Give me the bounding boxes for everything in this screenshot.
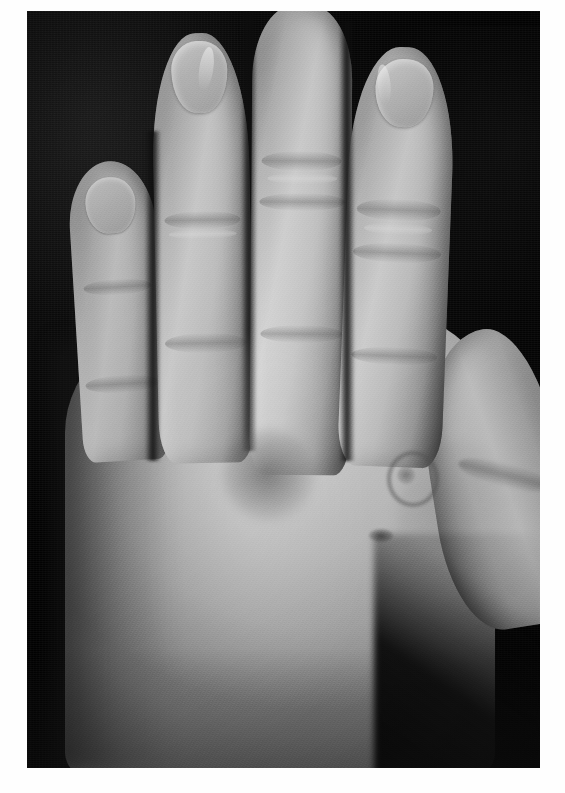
page-margin-right — [540, 0, 565, 793]
lesion-annular-center — [397, 466, 415, 484]
page-margin-bottom — [0, 768, 565, 793]
middle-finger-dip-highlight — [267, 173, 337, 184]
middle-finger-dip-crease — [261, 151, 341, 172]
lesion-diffuse-patch — [223, 429, 315, 521]
index-finger-dip-highlight — [364, 222, 432, 237]
clinical-photograph — [27, 11, 540, 768]
middle-finger-dip-crease-2 — [259, 193, 345, 212]
index-finger-dip-crease-2 — [353, 241, 442, 264]
page-margin-top — [0, 0, 565, 11]
middle-finger-pip-crease — [260, 325, 342, 344]
page-margin-left — [0, 0, 27, 793]
photograph-page: dorsum of a human hand, fingers extended… — [0, 0, 565, 793]
hand-subject — [27, 11, 540, 768]
little-finger-nail — [84, 176, 137, 235]
groove-middle-index — [339, 21, 355, 461]
index-finger-pip-crease — [351, 345, 438, 366]
little-finger-dip-crease — [83, 277, 152, 297]
wrist-lower-shadow — [27, 648, 540, 768]
groove-little-ring — [145, 131, 161, 461]
ring-finger-dip-crease — [164, 210, 240, 230]
index-finger-dip-crease — [356, 197, 441, 222]
ring-finger-dip-highlight — [169, 228, 237, 239]
